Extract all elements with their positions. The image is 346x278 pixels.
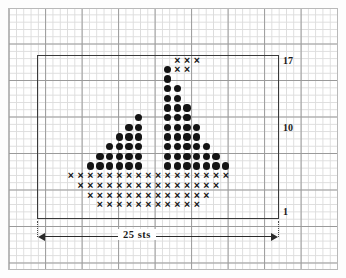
chart-cell-dot (202, 151, 212, 161)
chart-symbol-grid: ××××××××××××××××××××××××××××××××××××××××… (37, 55, 279, 219)
chart-cell-dot (182, 103, 192, 113)
chart-cell-dot (192, 142, 202, 152)
chart-cell-dot (192, 123, 202, 133)
chart-cell-dot (163, 74, 173, 84)
chart-cell-dot (173, 132, 183, 142)
chart-cell-dot (173, 103, 183, 113)
chart-cell-cross: × (221, 171, 231, 181)
stitch-count-label: 25 sts (118, 229, 156, 240)
chart-cell-cross: × (95, 200, 105, 210)
chart-cell-cross: × (66, 171, 76, 181)
chart-cell-dot (182, 142, 192, 152)
chart-cell-dot (114, 142, 124, 152)
chart-cell-dot (134, 142, 144, 152)
chart-cell-dot (192, 151, 202, 161)
chart-cell-dot (163, 151, 173, 161)
chart-cell-dot (114, 132, 124, 142)
chart-cell-dot (173, 113, 183, 123)
chart-cell-dot (163, 94, 173, 104)
chart-cell-dot (163, 113, 173, 123)
chart-cell-cross: × (76, 180, 86, 190)
measure-arrowhead-right (271, 233, 278, 241)
chart-cell-cross: × (182, 200, 192, 210)
chart-cell-cross: × (173, 200, 183, 210)
measure-arrowhead-left (38, 233, 45, 241)
chart-cell-cross: × (134, 200, 144, 210)
chart-cell-dot (163, 103, 173, 113)
chart-cell-dot (173, 94, 183, 104)
chart-cell-dot (163, 65, 173, 75)
measure-arrow-line (41, 236, 275, 237)
chart-cell-dot (134, 123, 144, 133)
chart-cell-dot (124, 142, 134, 152)
chart-cell-dot (163, 142, 173, 152)
chart-cell-cross: × (153, 200, 163, 210)
chart-cell-dot (163, 132, 173, 142)
row-label-1: 1 (283, 206, 288, 217)
chart-cell-dot (192, 132, 202, 142)
row-label-10: 10 (283, 122, 293, 133)
chart-cell-dot (182, 113, 192, 123)
chart-cell-dot (163, 123, 173, 133)
chart-cell-dot (124, 123, 134, 133)
chart-cell-dot (182, 123, 192, 133)
chart-cell-dot (114, 151, 124, 161)
chart-cell-cross: × (192, 55, 202, 65)
chart-page: ××××××××××××××××××××××××××××××××××××××××… (0, 0, 346, 278)
chart-cell-dot (134, 113, 144, 123)
chart-cell-dot (163, 84, 173, 94)
chart-cell-dot (105, 151, 115, 161)
chart-cell-cross: × (105, 200, 115, 210)
chart-cell-cross: × (143, 200, 153, 210)
chart-cell-dot (134, 132, 144, 142)
chart-cell-dot (173, 151, 183, 161)
chart-cell-cross: × (211, 180, 221, 190)
chart-cell-dot (173, 123, 183, 133)
chart-cell-cross: × (182, 65, 192, 75)
chart-cell-cross: × (114, 200, 124, 210)
chart-cell-cross: × (163, 200, 173, 210)
chart-cell-dot (211, 151, 221, 161)
chart-cell-cross: × (124, 200, 134, 210)
chart-cell-cross: × (173, 65, 183, 75)
chart-cell-dot (134, 151, 144, 161)
chart-cell-dot (124, 132, 134, 142)
chart-cell-dot (182, 132, 192, 142)
chart-cell-dot (105, 142, 115, 152)
chart-cell-dot (173, 84, 183, 94)
chart-cell-dot (124, 151, 134, 161)
chart-cell-cross: × (202, 190, 212, 200)
chart-cell-dot (182, 151, 192, 161)
row-label-17: 17 (283, 55, 293, 66)
chart-cell-dot (173, 142, 183, 152)
chart-cell-dot (202, 142, 212, 152)
measure-tick-right (278, 221, 279, 237)
chart-cell-cross: × (192, 200, 202, 210)
chart-cell-dot (95, 151, 105, 161)
chart-cell-cross: × (85, 190, 95, 200)
